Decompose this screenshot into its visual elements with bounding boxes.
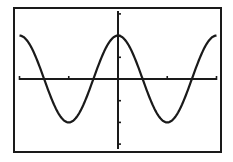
calculator-graph-screen	[0, 0, 233, 162]
graph-plot	[0, 0, 233, 162]
